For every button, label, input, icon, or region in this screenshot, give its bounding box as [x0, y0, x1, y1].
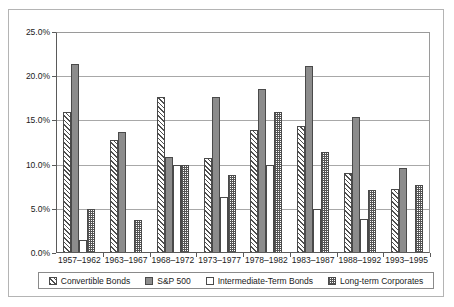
y-tick-label: 25.0% [26, 27, 50, 37]
legend-item[interactable]: Long-term Corporates [328, 276, 423, 286]
bar [368, 190, 376, 253]
bar [157, 97, 165, 253]
bar [220, 197, 228, 253]
bar [228, 175, 236, 253]
bar-group [243, 32, 290, 253]
bar-group [337, 32, 384, 253]
bar [118, 132, 126, 253]
x-tick-mark [430, 253, 431, 257]
bar [399, 168, 407, 253]
bar [110, 140, 118, 253]
bar [360, 219, 368, 253]
bar [165, 157, 173, 253]
bar [297, 126, 305, 253]
bar [415, 185, 423, 253]
bar-group [383, 32, 430, 253]
bar [173, 165, 181, 253]
bar-group [56, 32, 103, 253]
y-tick-label: 5.0% [31, 204, 50, 214]
bar [63, 112, 71, 253]
y-tick-mark [52, 253, 56, 254]
bar [79, 240, 87, 253]
bar [71, 64, 79, 253]
legend-label: Long-term Corporates [340, 276, 423, 286]
x-tick-label: 1973–1977 [196, 255, 243, 265]
legend-item[interactable]: Convertible Bonds [49, 276, 130, 286]
bar [134, 220, 142, 253]
legend-label: S&P 500 [157, 276, 190, 286]
legend-label: Intermediate-Term Bonds [218, 276, 313, 286]
bars-layer [56, 32, 430, 253]
x-tick-label: 1957–1962 [56, 255, 103, 265]
bar [305, 66, 313, 253]
legend-swatch-icon [49, 277, 57, 285]
bar [274, 112, 282, 253]
x-tick-label: 1978–1982 [243, 255, 290, 265]
y-tick-label: 0.0% [31, 248, 50, 258]
bar [204, 158, 212, 253]
x-tick-label: 1963–1967 [103, 255, 150, 265]
bar [87, 209, 95, 253]
x-tick-label: 1993–1995 [383, 255, 430, 265]
x-tick-label: 1988–1992 [337, 255, 384, 265]
x-tick-label: 1983–1987 [290, 255, 337, 265]
chart-figure: 0.0%5.0%10.0%15.0%20.0%25.0% 1957–196219… [8, 9, 444, 297]
x-tick-label: 1968–1972 [150, 255, 197, 265]
bar-group [103, 32, 150, 253]
legend-item[interactable]: S&P 500 [145, 276, 190, 286]
chart-legend: Convertible BondsS&P 500Intermediate-Ter… [38, 272, 434, 289]
bar [321, 152, 329, 253]
plot-area: 0.0%5.0%10.0%15.0%20.0%25.0% [56, 32, 430, 253]
y-tick-label: 15.0% [26, 115, 50, 125]
bar [313, 209, 321, 253]
bar [181, 165, 189, 253]
bar [212, 97, 220, 253]
legend-swatch-icon [145, 277, 153, 285]
legend-swatch-icon [328, 277, 336, 285]
x-axis-labels: 1957–19621963–19671968–19721973–19771978… [56, 255, 430, 265]
bar [391, 189, 399, 253]
legend-item[interactable]: Intermediate-Term Bonds [206, 276, 313, 286]
bar-group [196, 32, 243, 253]
bar [344, 173, 352, 253]
legend-swatch-icon [206, 277, 214, 285]
bar [258, 89, 266, 253]
bar-group [150, 32, 197, 253]
bar [266, 165, 274, 253]
legend-label: Convertible Bonds [61, 276, 130, 286]
y-tick-label: 10.0% [26, 160, 50, 170]
bar-group [290, 32, 337, 253]
bar [352, 117, 360, 253]
y-tick-label: 20.0% [26, 71, 50, 81]
bar [250, 130, 258, 253]
